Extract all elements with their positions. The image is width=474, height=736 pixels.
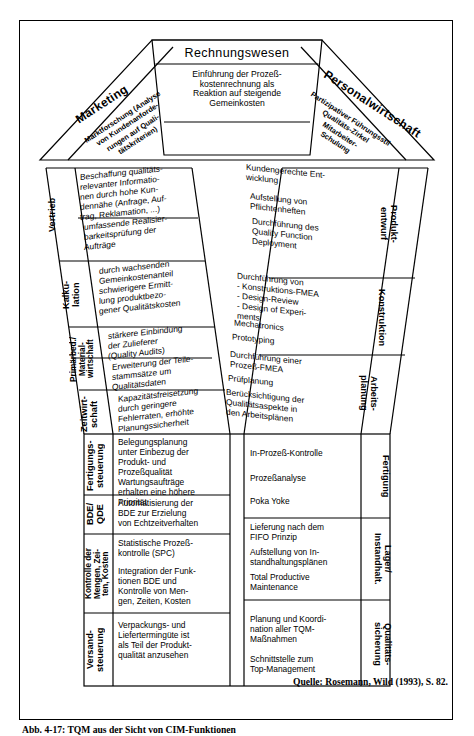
left-dept-kontrolle: Kontrolle der Mengen, Zei- ten, Kosten <box>85 536 113 612</box>
left-dept-vertrieb: Vertrieb <box>48 172 78 258</box>
right-cell-fertigung-1: In-Prozeß-Kontrolle <box>250 448 358 458</box>
right-dept-qualitaetssicherung: Qualitäts- sicherung <box>362 606 392 682</box>
source-note: Quelle: Rosemann, Wild (1993), S. 82. <box>293 676 448 687</box>
left-dept-zeitwirtschaft: Zeitwirt- schaft <box>80 394 114 434</box>
left-dept-kalkulation: Kalku- lation <box>62 266 96 324</box>
right-dept-fertigung: Fertigung <box>364 438 390 514</box>
left-dept-bde-qde: BDE/ QDE <box>86 497 112 532</box>
right-cell-fertigung-2: Prozeßanalyse <box>250 473 358 483</box>
right-cell-lager-1: Lieferung nach dem FIFO Prinzip <box>250 522 358 542</box>
right-cell-lager-3: Total Productive Maintenance <box>250 572 358 592</box>
figure-caption: Abb. 4-17: TQM aus der Sicht von CIM-Fun… <box>22 724 236 735</box>
left-cell-bde-1: Automatisierung der BDE zur Erzielung vo… <box>118 498 228 528</box>
right-cell-qs-1: Planung und Koordi- nation aller TQM- Ma… <box>250 614 358 644</box>
right-dept-produktentwurf: Produkt- entwurf <box>366 176 398 272</box>
left-cell-versand-1: Verpackungs- und Liefertermingüte ist al… <box>118 620 228 660</box>
left-dept-versandsteuerung: Versand- steuerung <box>86 616 112 684</box>
left-cell-fert-1: Belegungsplanung unter Einbezug der Prod… <box>118 437 228 477</box>
left-cell-kontrolle-1: Statistische Prozeß- kontrolle (SPC) <box>118 538 228 558</box>
right-dept-konstruktion: Konstruktion <box>356 284 386 352</box>
left-dept-fertigungssteuerung: Fertigungs- steuerung <box>86 438 112 493</box>
right-cell-lager-2: Aufstellung von In- standhaltungsplänen <box>250 547 358 567</box>
right-dept-arbeitsplanung: Arbeits- planung <box>348 362 378 424</box>
left-dept-materialwirtschaft: Primärbed./ Material- wirtschaft <box>70 330 110 388</box>
right-cell-fertigung-3: Poka Yoke <box>250 496 358 506</box>
right-dept-lager-instandhaltung: Lager/ Instandhalt. <box>362 522 392 596</box>
left-cell-kontrolle-2: Integration der Funk- tionen BDE und Kon… <box>118 566 228 606</box>
right-cell-qs-2: Schnittstelle zum Top-Management <box>250 654 358 674</box>
roof-center-title: Rechnungswesen <box>158 46 316 60</box>
